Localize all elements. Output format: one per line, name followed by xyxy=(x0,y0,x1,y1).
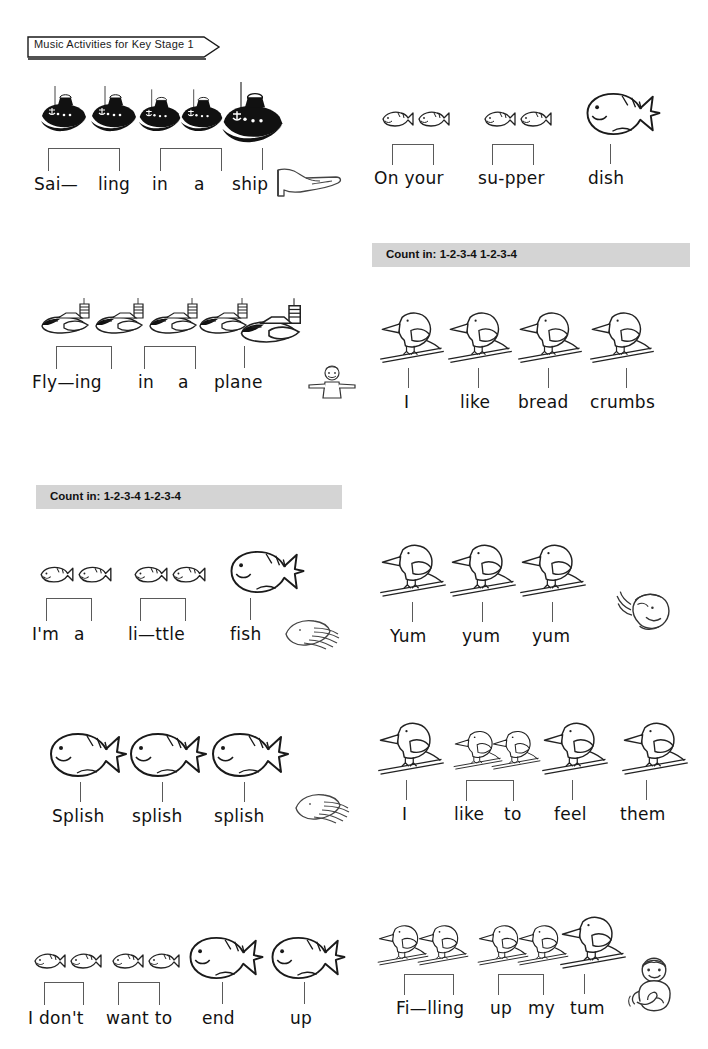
plane-icon xyxy=(90,298,146,336)
fish-icon xyxy=(206,730,294,780)
picture-row-planes xyxy=(26,288,356,346)
stanza-im-a-little-fish: I'm a li—ttle fish xyxy=(26,540,356,648)
beat-bracket xyxy=(144,346,196,369)
lyric-word: ship xyxy=(232,174,268,194)
beat-bracket xyxy=(118,982,160,1005)
stanza-filling-up-my-tum: Fi—lling up my tum xyxy=(372,896,702,1022)
clapping-hands-icon xyxy=(284,616,342,652)
bird-icon xyxy=(446,306,514,366)
lyric-word: su-pper xyxy=(478,168,545,188)
lyric-word: Splish xyxy=(52,806,104,826)
fish-icon xyxy=(124,730,212,780)
picture-row-fish xyxy=(26,540,356,598)
ship-icon xyxy=(88,86,140,134)
fish-icon xyxy=(170,565,208,584)
plane-icon xyxy=(234,298,304,346)
beat-stem xyxy=(162,782,163,802)
stanza-on-your-supper-dish: On your su-pper dish xyxy=(372,82,702,192)
lyric-word: plane xyxy=(214,372,263,392)
lyric-word: crumbs xyxy=(590,392,655,412)
lyric-word: a xyxy=(178,372,189,392)
beat-brackets-row xyxy=(26,982,356,1006)
fish-icon xyxy=(68,952,104,970)
bird-icon xyxy=(490,726,542,772)
lyric-word: fish xyxy=(230,624,262,644)
lyric-word: yum xyxy=(532,626,570,646)
fish-icon xyxy=(224,548,310,596)
count-in-label: Count in: 1-2-3-4 1-2-3-4 xyxy=(386,248,517,260)
beat-stem xyxy=(572,780,573,800)
beat-stem xyxy=(222,982,223,1004)
beat-bracket xyxy=(56,346,112,369)
picture-row-big-fish xyxy=(26,722,356,780)
beat-stem xyxy=(412,602,413,622)
bird-icon xyxy=(588,306,656,366)
fish-icon xyxy=(44,730,132,780)
fish-icon xyxy=(76,565,114,584)
bird-icon xyxy=(620,716,690,778)
beat-stem xyxy=(646,780,647,800)
bird-icon xyxy=(558,910,628,972)
beat-stems-row xyxy=(372,366,702,390)
bird-icon xyxy=(376,716,446,778)
lyric-word: ling xyxy=(98,174,130,194)
stanza-i-dont-want-to-end-up: I don't want to end up xyxy=(26,920,356,1032)
bird-icon xyxy=(378,306,446,366)
fish-icon xyxy=(380,110,416,128)
beat-stem xyxy=(304,982,305,1004)
lyric-word: splish xyxy=(132,806,183,826)
lyric-word: splish xyxy=(214,806,265,826)
lyric-word: I don't xyxy=(28,1008,84,1028)
lyric-word: like xyxy=(454,804,484,824)
bird-icon xyxy=(516,306,584,366)
lyric-word: like xyxy=(460,392,490,412)
beat-stem xyxy=(250,598,251,620)
fish-icon xyxy=(38,565,76,584)
stanza-yum-yum-yum: Yum yum yum xyxy=(372,522,702,650)
beat-stem xyxy=(244,782,245,802)
beat-bracket xyxy=(44,982,84,1005)
beat-bracket xyxy=(498,974,544,995)
fish-icon xyxy=(266,934,350,982)
fish-icon xyxy=(184,934,268,982)
picture-row-ships xyxy=(26,82,356,148)
ship-icon xyxy=(136,89,184,134)
beat-bracket xyxy=(48,148,120,171)
lyric-word: to xyxy=(504,804,522,824)
lyric-row: I like to feel them xyxy=(372,802,702,828)
arms-out-person-icon xyxy=(306,364,358,400)
bird-icon xyxy=(448,538,518,600)
bird-icon xyxy=(518,538,588,600)
ship-icon xyxy=(38,86,90,134)
picture-row-fish xyxy=(26,920,356,982)
lyric-word: in xyxy=(152,174,168,194)
beat-bracket xyxy=(492,144,534,165)
count-in-bar: Count in: 1-2-3-4 1-2-3-4 xyxy=(372,243,690,267)
plane-icon xyxy=(144,298,200,336)
fish-icon xyxy=(146,952,182,970)
beat-bracket xyxy=(140,598,186,621)
beat-stem xyxy=(626,368,627,388)
beat-bracket xyxy=(466,780,514,801)
lyric-word: Sai— xyxy=(34,174,78,194)
beat-bracket xyxy=(392,144,434,165)
lyric-row: I don't want to end up xyxy=(26,1006,356,1032)
beat-brackets-row xyxy=(372,144,702,166)
fish-icon xyxy=(110,952,146,970)
clapping-hands-icon xyxy=(294,790,352,826)
bird-icon xyxy=(416,920,470,968)
page-title-banner: Music Activities for Key Stage 1 xyxy=(26,34,224,58)
beat-stem xyxy=(552,602,553,622)
lyric-word: a xyxy=(74,624,85,644)
patting-tummy-person-icon xyxy=(624,954,684,1016)
beat-bracket xyxy=(404,974,454,995)
beat-stem xyxy=(244,346,245,368)
picture-row-fish xyxy=(372,82,702,144)
picture-row-birds xyxy=(372,292,702,366)
bird-icon xyxy=(540,716,610,778)
lyric-row: On your su-pper dish xyxy=(372,166,702,192)
lyric-word: my xyxy=(528,998,555,1018)
stanza-sailing-in-a-ship: Sai— ling in a ship xyxy=(26,82,356,198)
lyric-word: yum xyxy=(462,626,500,646)
ship-icon xyxy=(218,82,288,146)
